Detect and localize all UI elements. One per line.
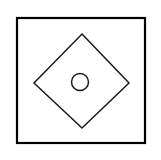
line-diagram <box>0 0 161 160</box>
figure-canvas: Square with inscribed diamond and center… <box>0 0 161 160</box>
